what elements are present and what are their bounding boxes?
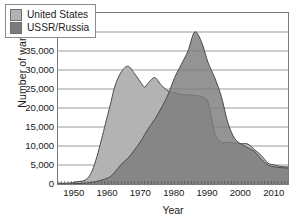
chart-figure: Number of warheads 45,00040,00035,00030,… bbox=[0, 0, 303, 223]
chart-legend: United States USSR/Russia bbox=[5, 4, 96, 38]
legend-swatch-united-states bbox=[10, 9, 22, 21]
x-axis-tick-label: 2000 bbox=[230, 187, 251, 198]
x-axis-title: Year bbox=[57, 204, 289, 216]
area-chart-svg bbox=[58, 13, 288, 184]
y-axis-tick-label: 20,000 bbox=[14, 102, 54, 113]
x-axis-tick-label: 1970 bbox=[130, 187, 151, 198]
legend-swatch-ussr-russia bbox=[10, 22, 22, 34]
x-axis-tick-label: 2010 bbox=[263, 187, 284, 198]
x-axis-tick-labels: 1950196019701980199020002010 bbox=[57, 187, 289, 203]
y-axis-tick-label: 0 bbox=[14, 178, 54, 189]
x-axis-tick-label: 1980 bbox=[163, 187, 184, 198]
y-axis-tick-label: 35,000 bbox=[14, 45, 54, 56]
y-axis-tick-label: 30,000 bbox=[14, 64, 54, 75]
y-axis-tick-label: 15,000 bbox=[14, 121, 54, 132]
x-axis-tick-label: 1990 bbox=[197, 187, 218, 198]
legend-item: United States bbox=[10, 8, 89, 21]
legend-label-united-states: United States bbox=[27, 9, 88, 20]
x-axis-tick-label: 1950 bbox=[63, 187, 84, 198]
legend-label-ussr-russia: USSR/Russia bbox=[27, 22, 89, 33]
legend-item: USSR/Russia bbox=[10, 21, 89, 34]
y-axis-tick-label: 25,000 bbox=[14, 83, 54, 94]
y-axis-tick-label: 10,000 bbox=[14, 140, 54, 151]
x-axis-tick-label: 1960 bbox=[97, 187, 118, 198]
y-axis-tick-label: 5,000 bbox=[14, 159, 54, 170]
